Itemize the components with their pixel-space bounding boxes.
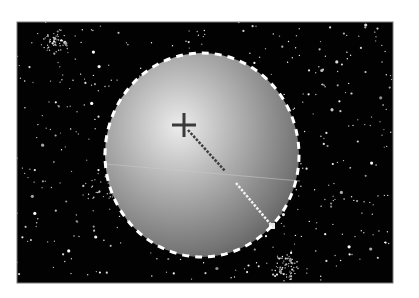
image-canvas[interactable] bbox=[0, 0, 419, 298]
